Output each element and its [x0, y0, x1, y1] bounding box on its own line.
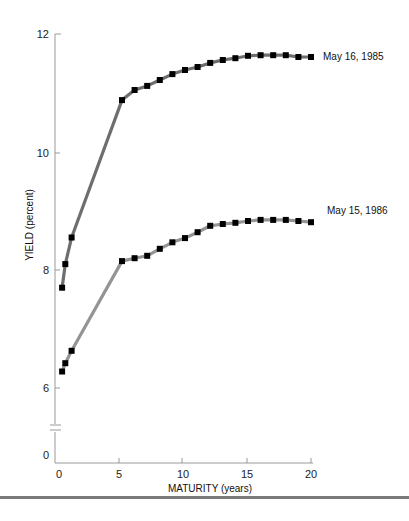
- data-point-marker: [195, 64, 201, 70]
- x-tick-10: 10: [177, 468, 189, 480]
- data-point-marker: [59, 369, 65, 375]
- data-point-marker: [62, 261, 68, 267]
- data-point-marker: [59, 285, 65, 291]
- data-point-marker: [258, 217, 264, 223]
- series-label-1985: May 16, 1985: [323, 51, 384, 62]
- y-tick-6: 6: [43, 382, 49, 394]
- series-2: [59, 217, 314, 375]
- x-tick-15: 15: [241, 468, 253, 480]
- data-point-marker: [119, 97, 125, 103]
- y-tick-0: 0: [43, 449, 49, 461]
- data-point-marker: [169, 71, 175, 77]
- x-tick-0: 0: [56, 468, 62, 480]
- data-point-marker: [69, 348, 75, 354]
- data-point-marker: [69, 235, 75, 241]
- data-point-marker: [232, 55, 238, 61]
- bottom-rule-divider: [0, 496, 409, 499]
- data-point-marker: [207, 223, 213, 229]
- data-point-marker: [169, 239, 175, 245]
- y-axis-label: YIELD (percent): [24, 189, 35, 261]
- data-point-marker: [182, 67, 188, 73]
- data-point-marker: [270, 217, 276, 223]
- x-tick-5: 5: [116, 468, 122, 480]
- axis-break-icon: [50, 425, 61, 430]
- x-tick-20: 20: [305, 468, 317, 480]
- series-label-1986: May 15, 1986: [327, 205, 388, 216]
- data-point-marker: [132, 87, 138, 93]
- data-point-marker: [270, 52, 276, 58]
- data-point-marker: [144, 253, 150, 259]
- data-point-marker: [308, 219, 314, 225]
- data-point-marker: [258, 52, 264, 58]
- data-point-marker: [308, 54, 314, 60]
- data-point-marker: [157, 77, 163, 83]
- data-point-marker: [62, 360, 68, 366]
- data-point-marker: [295, 218, 301, 224]
- data-point-marker: [144, 83, 150, 89]
- data-point-marker: [195, 229, 201, 235]
- x-axis: 0 5 10 15 20 MATURITY (years): [55, 458, 317, 494]
- series-line: [62, 220, 311, 372]
- series-layer: [59, 52, 314, 374]
- data-point-marker: [220, 221, 226, 227]
- y-tick-8: 8: [43, 264, 49, 276]
- series-line: [62, 55, 311, 288]
- data-point-marker: [157, 246, 163, 252]
- data-point-marker: [119, 258, 125, 264]
- data-point-marker: [283, 217, 289, 223]
- y-tick-10: 10: [37, 147, 49, 159]
- series-1: [59, 52, 314, 291]
- data-point-marker: [295, 54, 301, 60]
- data-point-marker: [283, 52, 289, 58]
- data-point-marker: [232, 220, 238, 226]
- data-point-marker: [182, 235, 188, 241]
- data-point-marker: [207, 60, 213, 66]
- x-axis-label: MATURITY (years): [168, 483, 252, 494]
- data-point-marker: [245, 53, 251, 59]
- y-tick-12: 12: [37, 28, 49, 40]
- data-point-marker: [245, 218, 251, 224]
- yield-curve-chart: 12 10 8 6 0 YIELD (percent) 0 5 10 15 20…: [0, 0, 409, 521]
- y-axis: 12 10 8 6 0 YIELD (percent): [24, 28, 61, 463]
- data-point-marker: [220, 57, 226, 63]
- data-point-marker: [132, 255, 138, 261]
